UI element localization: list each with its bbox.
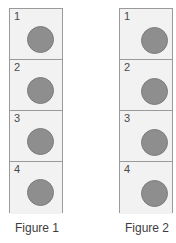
- figure-2-cell-2: 2: [120, 60, 172, 111]
- figure-1-cell-2: 2: [10, 60, 62, 111]
- gray-disc-icon: [27, 179, 54, 206]
- cell-number-label: 3: [124, 112, 130, 125]
- figure-1-caption: Figure 1: [1, 221, 73, 236]
- figure-1-cell-3: 3: [10, 111, 62, 162]
- figure-2-caption: Figure 2: [111, 221, 176, 236]
- cell-number-label: 4: [14, 163, 20, 176]
- figure-1-cell-4: 4: [10, 162, 62, 214]
- figure-2-cell-4: 4: [120, 162, 172, 214]
- gray-disc-icon: [141, 180, 168, 207]
- cell-number-label: 1: [14, 10, 20, 23]
- figure-1-cell-1: 1: [10, 9, 62, 60]
- figure-2-cell-1: 1: [120, 9, 172, 60]
- gray-disc-icon: [141, 78, 168, 105]
- figure-1-group: 1 2 3 4 Figure 1: [9, 0, 75, 243]
- gray-disc-icon: [27, 77, 54, 104]
- figure-2-column: 1 2 3 4: [119, 8, 173, 213]
- gray-disc-icon: [141, 129, 168, 156]
- diagram-canvas: 1 2 3 4 Figure 1 1: [0, 0, 176, 243]
- cell-number-label: 2: [124, 61, 130, 74]
- figure-2-cell-3: 3: [120, 111, 172, 162]
- cell-number-label: 4: [124, 163, 130, 176]
- gray-disc-icon: [141, 27, 168, 54]
- cell-number-label: 2: [14, 61, 20, 74]
- gray-disc-icon: [27, 26, 54, 53]
- cell-number-label: 1: [124, 10, 130, 23]
- figure-1-column: 1 2 3 4: [9, 8, 63, 213]
- cell-number-label: 3: [14, 112, 20, 125]
- gray-disc-icon: [27, 128, 54, 155]
- figure-2-group: 1 2 3 4 Figure 2: [119, 0, 176, 243]
